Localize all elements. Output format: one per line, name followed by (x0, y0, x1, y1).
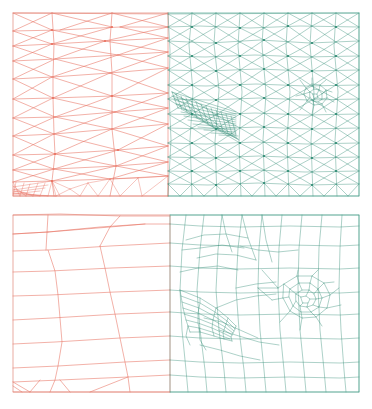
triangular-mesh-nodes (191, 25, 337, 186)
mesh-figure (0, 0, 372, 409)
triangular-red-bottom-strip (13, 176, 168, 196)
triangular-mesh-canvas (0, 0, 372, 205)
triangular-red-partition (13, 13, 168, 196)
quad-teal-rows (170, 215, 359, 392)
quad-teal-recirculation-block (180, 290, 236, 350)
quadrilateral-mesh-canvas (0, 205, 372, 409)
triangular-teal-vortex-refinement (296, 78, 334, 114)
panel-quadrilateral-mesh (0, 205, 372, 409)
quad-red-partition (13, 214, 170, 392)
quad-teal-columns (170, 215, 359, 392)
panel-triangular-mesh (0, 0, 372, 205)
